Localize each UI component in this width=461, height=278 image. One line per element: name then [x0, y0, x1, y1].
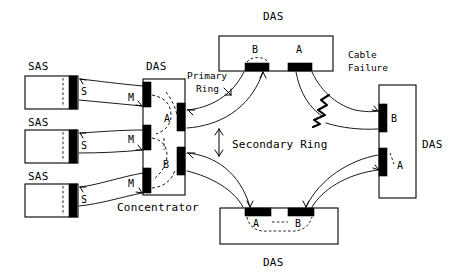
das-right-b-label: B [391, 113, 397, 124]
sas3-arrowhead-in [80, 187, 86, 192]
secondary-ring-label: Secondary Ring [232, 138, 328, 151]
link-m-label-3: M [128, 178, 134, 189]
das-right-a-label: A [397, 160, 403, 171]
concentrator-m-port-block-1 [143, 82, 151, 107]
sas2-link-out [79, 150, 142, 153]
arrowhead-conc-a-top [188, 110, 195, 115]
das-top-b-port-block [245, 63, 269, 71]
das-top-a-label: A [296, 44, 302, 55]
sas-port-label-3: S [81, 194, 87, 205]
primary-ring-label-line1: Primary [187, 70, 227, 81]
cable-fault-to-right-b-upper [312, 72, 378, 112]
sas-port-block-2 [69, 130, 77, 163]
cable-failure-label-line2: Failure [348, 62, 388, 73]
concentrator-a-label: A [164, 113, 170, 124]
das-right-label: DAS [422, 138, 442, 151]
arrowhead-bottom-b [303, 201, 309, 207]
secondary-ring-annotation: Secondary Ring [215, 129, 328, 156]
concentrator-b-port-block [177, 147, 185, 175]
das-top-a-port-block [288, 63, 312, 71]
das-bottom-label: DAS [263, 256, 283, 269]
sas-label-2: SAS [28, 116, 48, 129]
cable-failure-label-line1: Cable [348, 49, 377, 60]
ring-cable-concentrator-to-bottom [187, 153, 253, 207]
concentrator-b-label: B [163, 159, 169, 170]
das-top-label: DAS [263, 10, 283, 23]
concentrator-das-label: DAS [146, 60, 166, 73]
sas-port-block-3 [69, 184, 77, 217]
sas-port-label-2: S [81, 140, 87, 151]
sas-port-block-1 [69, 76, 77, 109]
primary-ring-annotation: Primary Ring [187, 70, 231, 95]
das-bottom-node: A B DAS [220, 208, 338, 269]
sas2-arrowhead-in [80, 133, 86, 138]
sas-station-1: SAS S [25, 60, 87, 109]
das-right-node: DAS B A [379, 85, 442, 198]
cable-failure-annotation: Cable Failure [348, 49, 388, 73]
link-m-label-1: M [128, 92, 134, 103]
concentrator-m-port-block-2 [143, 125, 151, 150]
arrowhead-bottom-a [247, 201, 253, 207]
sas-label-1: SAS [28, 60, 48, 73]
das-top-node: DAS B A [219, 10, 333, 71]
link-m-label-2: M [128, 134, 134, 145]
das-top-box [219, 36, 333, 71]
das-bottom-b-port-block [288, 208, 314, 216]
diagram-canvas: SAS S SAS S SAS S DAS [0, 0, 461, 278]
arrowhead-right-a [373, 165, 379, 170]
das-right-b-port-block [379, 104, 387, 132]
fddi-ring-diagram: SAS S SAS S SAS S DAS [0, 0, 461, 278]
cable-fault-to-right-b-lower [326, 123, 378, 129]
das-right-box [379, 85, 416, 198]
primary-ring-label-line2: Ring [196, 83, 219, 94]
cable-bottom-a-to-conc-b-in [187, 153, 250, 207]
das-bottom-b-label: B [295, 218, 301, 229]
das-bottom-box [220, 208, 338, 244]
sas-label-3: SAS [28, 170, 48, 183]
sas1-arrowhead-in [80, 79, 86, 84]
concentrator-m-port-block-3 [143, 168, 151, 193]
sas2-link-in [80, 130, 143, 133]
das-top-b-label: B [252, 44, 258, 55]
sas2-arrowhead-out [136, 145, 142, 150]
sas-station-2: SAS S [25, 116, 87, 163]
sas-station-3: SAS S [25, 170, 87, 217]
ring-cable-right-to-bottom [303, 155, 379, 207]
das-right-a-port-block [379, 148, 387, 176]
sas1-link-in [80, 79, 143, 86]
cable-right-a-to-bottom-b-out [312, 170, 378, 207]
arrowhead-right-b [372, 106, 378, 111]
concentrator-caption: Concentrator [117, 201, 199, 214]
concentrator-a-port-block [177, 103, 185, 131]
sas-port-label-1: S [81, 86, 87, 97]
arrowhead-top-b [260, 72, 266, 78]
das-bottom-a-port-block [245, 208, 271, 216]
das-bottom-a-label: A [253, 218, 259, 229]
sas3-arrowhead-out [136, 188, 142, 193]
ring-cable-top-to-right [296, 72, 378, 129]
sas1-arrowhead-out [136, 101, 142, 106]
